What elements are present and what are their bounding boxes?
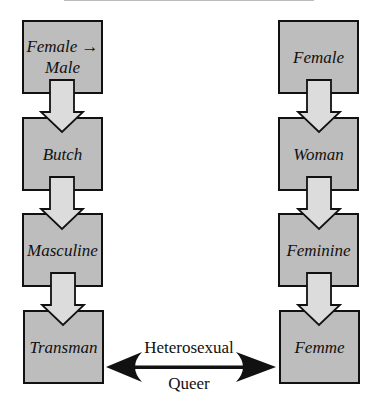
gender-identity-diagram: Female → Male Butch Masculine Transman F… bbox=[0, 0, 378, 406]
down-arrow-icon bbox=[298, 273, 340, 325]
down-arrow-icon bbox=[41, 177, 83, 229]
relation-label-queer: Queer bbox=[104, 374, 274, 394]
down-arrow-icon bbox=[298, 80, 340, 132]
down-arrow-icon bbox=[41, 80, 83, 132]
relation-label-heterosexual: Heterosexual bbox=[104, 338, 274, 358]
down-arrow-icon bbox=[42, 273, 84, 325]
down-arrow-icon bbox=[298, 177, 340, 229]
